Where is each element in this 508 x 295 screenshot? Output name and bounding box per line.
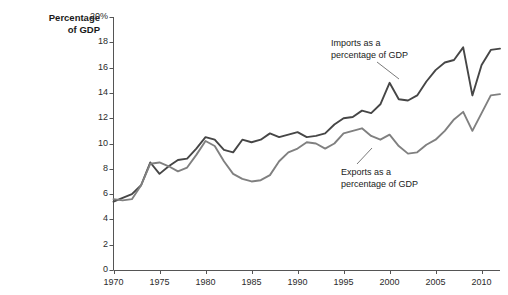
annotation-exports-line-1: Exports as a [341,167,391,177]
x-tick-label: 1985 [232,277,272,287]
series-line [114,94,501,200]
axes [114,17,501,271]
y-tick-label: 18 [66,36,108,46]
data-series-group [114,47,501,201]
leader-line-exports [357,148,372,164]
annotation-exports: Exports as apercentage of GDP [341,167,418,190]
y-tick-label: 12 [66,112,108,122]
y-tick-label: 20% [66,11,108,21]
y-tick-label: 8 [66,163,108,173]
y-tick-label: 6 [66,188,108,198]
annotation-exports-line-2: percentage of GDP [341,179,418,189]
series-line [114,47,501,201]
x-tick-label: 1970 [94,277,134,287]
y-tick-label: 10 [66,138,108,148]
y-axis-tick-marks [110,18,114,271]
annotation-imports-line-2: percentage of GDP [331,50,408,60]
annotation-imports: Imports as apercentage of GDP [331,38,408,61]
y-tick-label: 0 [66,264,108,274]
x-tick-label: 1990 [278,277,318,287]
x-tick-label: 1975 [140,277,180,287]
y-tick-label: 16 [66,62,108,72]
y-tick-label: 2 [66,239,108,249]
x-tick-label: 1980 [186,277,226,287]
x-tick-label: 2010 [462,277,502,287]
x-tick-label: 2005 [416,277,456,287]
annotation-imports-line-1: Imports as a [331,38,381,48]
leader-line-imports [377,62,399,79]
y-tick-label: 4 [66,213,108,223]
x-tick-label: 1995 [324,277,364,287]
x-tick-label: 2000 [370,277,410,287]
figure-container: Percentageof GDP Imports as apercentage … [0,0,508,295]
y-tick-label: 14 [66,87,108,97]
annotation-leader-lines [357,62,399,164]
